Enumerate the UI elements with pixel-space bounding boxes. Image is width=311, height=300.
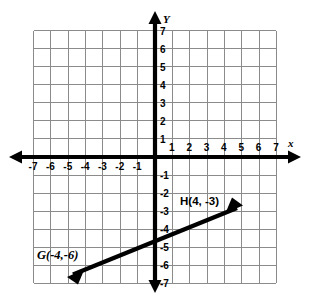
x-tick-label: 4 xyxy=(221,142,227,153)
x-tick-label: -6 xyxy=(46,161,55,172)
x-tick-label: -7 xyxy=(29,161,38,172)
x-tick-label: 2 xyxy=(186,142,192,153)
x-tick-label: 5 xyxy=(238,142,244,153)
x-tick-label: -2 xyxy=(115,161,124,172)
y-tick-label: -2 xyxy=(160,188,169,199)
x-tick-label: -5 xyxy=(63,161,72,172)
x-tick-label: 3 xyxy=(204,142,210,153)
y-tick-label: 5 xyxy=(160,62,166,73)
y-tick-label: -6 xyxy=(160,260,169,271)
y-tick-label: 3 xyxy=(160,98,166,109)
x-tick-label: -4 xyxy=(81,161,90,172)
x-tick-label: 6 xyxy=(256,142,262,153)
x-tick-label: -3 xyxy=(98,161,107,172)
point-label-G: G(-4,-6) xyxy=(37,248,78,262)
x-tick-label: 1 xyxy=(169,142,175,153)
y-tick-label: 2 xyxy=(160,116,166,127)
x-tick-label: -1 xyxy=(133,161,142,172)
y-tick-label: -1 xyxy=(160,170,169,181)
y-tick-label: -4 xyxy=(160,224,169,235)
point-label-H: H(4, -3) xyxy=(180,195,219,207)
y-tick-label: -7 xyxy=(160,278,169,289)
y-tick-label: 7 xyxy=(160,26,166,37)
y-tick-label: -5 xyxy=(160,242,169,253)
y-tick-label: 4 xyxy=(160,80,166,91)
x-tick-label: 7 xyxy=(273,142,279,153)
y-tick-label: 6 xyxy=(160,44,166,55)
coordinate-plane-chart: -7-6-5-4-3-2-11234567 7654321-1-2-3-4-5-… xyxy=(0,0,311,300)
y-tick-label: -3 xyxy=(160,206,169,217)
x-axis-name-label: x xyxy=(287,137,294,149)
y-tick-label: 1 xyxy=(160,134,166,145)
